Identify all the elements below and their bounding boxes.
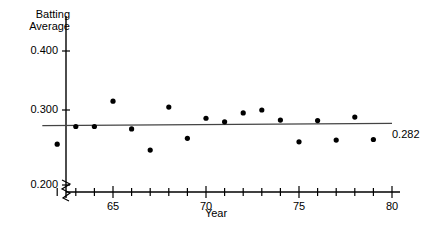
data-point (259, 107, 264, 112)
y-axis-tick-label: 0.300 (14, 103, 58, 115)
data-point (203, 116, 208, 121)
trend-line-value-label: 0.282 (392, 128, 420, 140)
data-point (129, 126, 134, 131)
data-point (315, 118, 320, 123)
batting-average-scatter-chart: Batting Average Year 0.282 0.4000.3000.2… (0, 0, 440, 232)
data-point (296, 139, 301, 144)
data-point (92, 124, 97, 129)
x-axis-tick-label: 70 (193, 200, 219, 212)
data-point (185, 136, 190, 141)
y-axis-tick-label: 0.200 (14, 178, 58, 190)
x-axis-tick-label: 80 (379, 200, 405, 212)
data-point (73, 124, 78, 129)
y-axis-tick-label: 0.400 (14, 44, 58, 56)
data-point (110, 99, 115, 104)
y-axis-title: Batting Average (14, 8, 70, 32)
x-axis-tick-label: 75 (286, 200, 312, 212)
x-axis-tick-label: 65 (100, 200, 126, 212)
plot-area (0, 0, 440, 232)
data-point (371, 137, 376, 142)
data-point (222, 119, 227, 124)
data-point (55, 142, 60, 147)
data-point (334, 137, 339, 142)
data-point (278, 117, 283, 122)
data-point (241, 110, 246, 115)
data-point (166, 104, 171, 109)
data-point (352, 114, 357, 119)
data-point (148, 148, 153, 153)
